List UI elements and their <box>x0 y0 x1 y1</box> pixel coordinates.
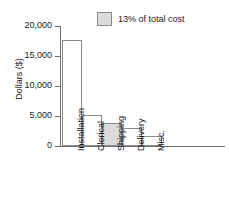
legend-label: 13% of total cost <box>118 14 185 24</box>
x-tick-label-shipping: Shipping <box>116 116 126 151</box>
bar-chart: 13% of total cost Dollars ($) 20,000 15,… <box>0 0 229 217</box>
y-tick-mark <box>55 116 60 117</box>
x-tick-label-clerical: Clerical <box>96 121 106 151</box>
x-tick-label-delivery: Delivery <box>136 118 146 151</box>
x-tick-label-misc: Misc. <box>156 130 166 151</box>
y-tick-label: 0 <box>47 140 52 151</box>
chart-legend: 13% of total cost <box>97 12 185 26</box>
y-axis-line <box>60 26 61 147</box>
x-tick-label-installation: Installation <box>76 108 86 151</box>
y-tick-label: 20,000 <box>24 20 52 31</box>
y-tick-mark <box>55 26 60 27</box>
y-tick-label: 10,000 <box>24 80 52 91</box>
y-tick-mark <box>55 146 60 147</box>
y-axis-title: Dollars ($) <box>14 44 24 114</box>
y-tick-label: 5,000 <box>29 110 52 121</box>
y-tick-label: 15,000 <box>24 50 52 61</box>
y-tick-mark <box>55 86 60 87</box>
y-tick-mark <box>55 56 60 57</box>
legend-swatch-icon <box>97 12 112 26</box>
